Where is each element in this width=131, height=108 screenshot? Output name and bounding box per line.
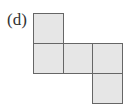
figure-label: (d)	[7, 10, 27, 30]
square-r2-c2	[92, 73, 123, 104]
square-r1-c1	[63, 43, 94, 74]
square-r0-c0	[33, 13, 64, 44]
square-r1-c2	[92, 43, 123, 74]
square-r1-c0	[33, 43, 64, 74]
